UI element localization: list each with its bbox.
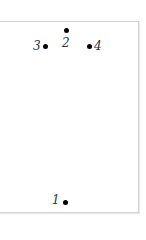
point-1-label: 1 — [52, 194, 60, 206]
point-2-dot — [64, 28, 69, 33]
point-4-label: 4 — [94, 40, 102, 52]
point-3-dot — [43, 44, 48, 49]
point-1-dot — [63, 200, 68, 205]
point-4-dot — [87, 44, 92, 49]
point-3-label: 3 — [33, 40, 41, 52]
point-2-label: 2 — [62, 37, 70, 49]
